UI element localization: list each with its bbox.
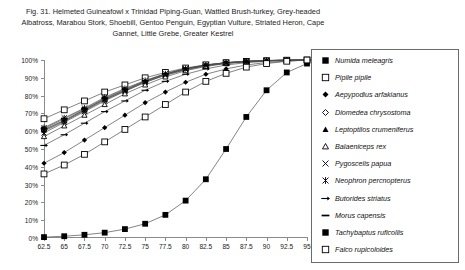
filled-triangle-icon (319, 123, 332, 136)
data-point-filled-diamond (102, 125, 107, 130)
x-tick-label: 77.5 (159, 243, 172, 250)
legend-item[interactable]: Balaeniceps rex (312, 138, 458, 155)
data-point-filled-square (142, 221, 148, 227)
open-diamond-icon (319, 106, 332, 119)
filled-square-icon (319, 54, 332, 67)
data-point-filled-square (264, 87, 270, 93)
data-point-filled-diamond (323, 92, 329, 98)
data-point-filled-diamond (41, 161, 46, 166)
legend-label: Falco rupicoloides (335, 245, 393, 254)
data-point-star-x (323, 177, 329, 184)
legend-item[interactable]: Butorides striatus (312, 190, 458, 207)
figure-container: Fig. 31. Helmeted Guineafowl x Trinidad … (0, 0, 465, 270)
y-tick-label: 90% (25, 74, 38, 81)
data-point-filled-diamond (163, 89, 168, 94)
open-square-icon (319, 243, 332, 256)
legend-label: Pipile pipile (335, 73, 371, 82)
x-tick-label: 62.5 (38, 243, 51, 250)
data-point-open-square (142, 114, 148, 120)
data-point-filled-square (41, 234, 47, 240)
legend-item[interactable]: Diomedea chrysostoma (312, 104, 458, 121)
legend-item[interactable]: Tachybaptus ruficollis (312, 224, 458, 241)
data-point-filled-square (61, 233, 67, 239)
legend-label: Tachybaptus ruficollis (335, 228, 403, 237)
data-point-open-square (41, 171, 47, 177)
data-point-open-square (82, 98, 88, 104)
dash-icon (319, 209, 332, 222)
x-tick-label: 75 (141, 243, 148, 250)
x-tick-label: 90 (263, 243, 270, 250)
data-point-filled-diamond (183, 80, 188, 85)
data-point-open-square (264, 61, 270, 67)
data-point-filled-diamond (62, 150, 67, 155)
data-point-open-square (102, 89, 108, 95)
data-point-open-square (304, 57, 310, 63)
data-point-filled-square (322, 229, 328, 235)
legend-label: Aepypodius arfakianus (335, 90, 408, 99)
data-point-open-square (243, 64, 249, 70)
series-3 (41, 57, 309, 133)
y-tick-label: 0% (28, 235, 38, 242)
data-point-open-square (61, 107, 67, 113)
legend-item[interactable]: Morus capensis (312, 207, 458, 224)
data-point-open-square (162, 102, 168, 108)
figure-caption: Fig. 31. Helmeted Guineafowl x Trinidad … (8, 6, 338, 39)
data-point-open-square (41, 116, 47, 122)
legend-item[interactable]: Aepypodius arfakianus (312, 86, 458, 103)
series-6 (41, 57, 309, 135)
data-point-filled-square (122, 226, 128, 232)
data-point-filled-triangle (323, 126, 329, 131)
plot-area: 62.56567.57072.57577.58082.58587.59092.5… (44, 60, 307, 238)
y-tick-label: 70% (25, 110, 38, 117)
data-point-filled-diamond (82, 138, 87, 143)
series-0 (41, 57, 310, 132)
y-tick-label: 50% (25, 146, 38, 153)
data-point-open-square (61, 162, 67, 168)
data-point-open-square (322, 75, 328, 81)
y-tick-label: 30% (25, 181, 38, 188)
data-point-open-square (82, 151, 88, 157)
legend-item[interactable]: Neophron percnopterus (312, 172, 458, 189)
data-point-dash-arrow (321, 196, 330, 200)
data-point-filled-square (322, 57, 328, 63)
y-tick-label: 100% (21, 57, 38, 64)
data-point-filled-square (203, 176, 209, 182)
filled-square-icon (319, 226, 332, 239)
legend-item[interactable]: Pipile pipile (312, 69, 458, 86)
cross-x-icon (319, 157, 332, 170)
legend-label: Pygoscelis papua (335, 159, 391, 168)
legend-label: Balaeniceps rex (335, 142, 386, 151)
data-point-filled-diamond (122, 113, 127, 118)
data-point-filled-square (284, 70, 290, 76)
legend-label: Morus capensis (335, 211, 385, 220)
star-x-icon (319, 174, 332, 187)
legend-label: Butorides striatus (335, 194, 391, 203)
data-point-open-square (322, 246, 328, 252)
y-tick-label: 80% (25, 92, 38, 99)
y-tick-label: 10% (25, 217, 38, 224)
legend-item[interactable]: Pygoscelis papua (312, 155, 458, 172)
series-7 (41, 57, 309, 131)
data-point-open-square (284, 58, 290, 64)
data-point-filled-square (82, 232, 88, 238)
legend-label: Diomedea chrysostoma (335, 108, 411, 117)
dash-arrow-icon (319, 192, 332, 205)
caption-line-1: Fig. 31. Helmeted Guineafowl x Trinidad … (8, 6, 338, 17)
caption-line-3: Gannet, Little Grebe, Greater Kestrel (8, 28, 338, 39)
legend-label: Neophron percnopterus (335, 176, 411, 185)
legend-item[interactable]: Numida meleagris (312, 52, 458, 69)
open-triangle-icon (319, 140, 332, 153)
series-lines (44, 60, 307, 238)
x-tick-label: 67.5 (78, 243, 91, 250)
legend-item[interactable]: Falco rupicoloides (312, 241, 458, 258)
caption-line-2: Albatross, Marabou Stork, Shoebill, Gent… (8, 17, 338, 28)
x-tick-label: 80 (182, 243, 189, 250)
y-tick-label: 60% (25, 128, 38, 135)
data-point-open-diamond (323, 109, 329, 115)
data-point-filled-square (102, 230, 108, 236)
data-point-filled-square (243, 114, 249, 120)
series-4 (41, 57, 309, 132)
x-tick (307, 237, 308, 241)
data-point-open-square (183, 89, 189, 95)
legend-item[interactable]: Leptoptilos crumeniferus (312, 121, 458, 138)
